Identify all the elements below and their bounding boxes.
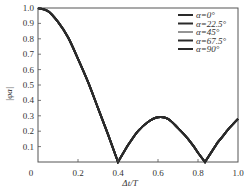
legend-label: α=90°: [196, 44, 220, 54]
y-tick-label: 0.7: [23, 49, 35, 59]
y-axis-label: |φa|: [4, 87, 14, 101]
chart: 0.10.20.30.40.50.60.70.80.91.0 00.20.40.…: [0, 0, 246, 193]
x-tick-label: 0.6: [152, 168, 164, 178]
x-tick-label: 0.8: [192, 168, 204, 178]
x-tick-label: 0.4: [112, 168, 124, 178]
y-tick-label: 0.4: [23, 95, 35, 105]
y-tick-label: 0.5: [23, 80, 35, 90]
x-axis-label: Δt/T: [121, 178, 138, 188]
x-tick-label: 0: [29, 168, 34, 178]
legend: α=0°α=22.5°α=45°α=67.5°α=90°: [178, 10, 227, 54]
y-tick-label: 1.0: [23, 3, 35, 13]
y-tick-label: 0.2: [23, 126, 34, 136]
x-tick-label: 0.2: [72, 168, 83, 178]
x-tick-label: 1.0: [232, 168, 244, 178]
y-tick-label: 0.1: [23, 142, 34, 152]
y-tick-label: 0.9: [23, 18, 35, 28]
y-tick-label: 0.6: [23, 65, 35, 75]
y-tick-label: 0.3: [23, 111, 35, 121]
y-tick-label: 0.8: [23, 34, 35, 44]
